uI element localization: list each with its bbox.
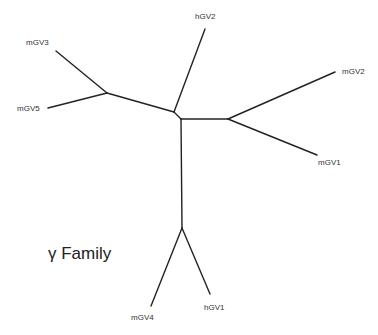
branch-mGV2 [228,72,335,119]
leaf-label-mgv3: mGV3 [26,38,49,47]
branch-mGV1 [228,119,317,155]
branch-mGV4 [151,228,182,306]
leaf-label-hgv2: hGV2 [195,12,215,21]
branch-internal-a-b [107,93,174,112]
branch-mGV5 [48,93,107,108]
leaf-label-mgv4: mGV4 [131,313,154,322]
branch-mGV3 [56,51,107,93]
leaf-label-mgv1: mGV1 [318,158,341,167]
branch-hGV1 [182,228,210,294]
leaf-label-hgv1: hGV1 [204,303,224,312]
leaf-label-mgv5: mGV5 [17,104,40,113]
branch-internal-c-e [181,119,182,228]
diagram-title: γ Family [48,244,111,264]
tree-svg [0,0,378,335]
branch-hGV2 [174,29,205,112]
branch-internal-b-c [174,112,181,119]
leaf-label-mgv2: mGV2 [342,67,365,76]
